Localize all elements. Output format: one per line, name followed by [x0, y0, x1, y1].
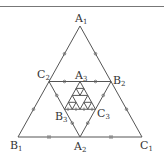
- innermost-left: [68, 102, 76, 109]
- innermost-right: [84, 102, 92, 109]
- label-C3: C3: [97, 107, 110, 121]
- innermost-top: [76, 88, 84, 95]
- label-C1: C1: [140, 139, 153, 153]
- label-A2: A2: [73, 140, 86, 154]
- label-B2: B2: [113, 74, 126, 88]
- vertex-labels: A1 B1 C1 A2 B2 C2 A3 B3 C3: [10, 12, 153, 154]
- triangle-diagram: A1 B1 C1 A2 B2 C2 A3 B3 C3: [0, 0, 164, 164]
- label-C2: C2: [37, 68, 50, 82]
- label-B1: B1: [10, 139, 23, 153]
- label-A1: A1: [74, 12, 87, 26]
- label-A3: A3: [74, 69, 87, 83]
